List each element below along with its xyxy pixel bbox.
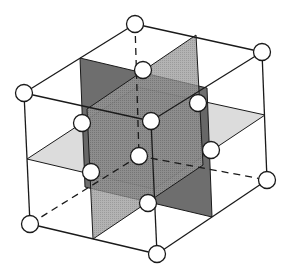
atom-corner-top-back (127, 16, 144, 33)
atom-corner-top-right (254, 44, 271, 61)
atom-corner-bottom-front (149, 246, 166, 263)
atom-corner-top-front (143, 113, 160, 130)
atom-face-back-right (190, 95, 207, 112)
atom-face-bottom (140, 195, 157, 212)
cube-edge (135, 24, 262, 52)
atom-face-top (135, 62, 152, 79)
cubic-lattice-diagram (0, 0, 292, 278)
atom-corner-top-left (16, 85, 33, 102)
atom-face-back-left (74, 115, 91, 132)
atom-corner-bottom-back (131, 148, 148, 165)
atom-face-front-right (203, 142, 220, 159)
atom-corner-bottom-right (259, 172, 276, 189)
atom-face-front-left (83, 164, 100, 181)
atom-corner-bottom-left (22, 216, 39, 233)
